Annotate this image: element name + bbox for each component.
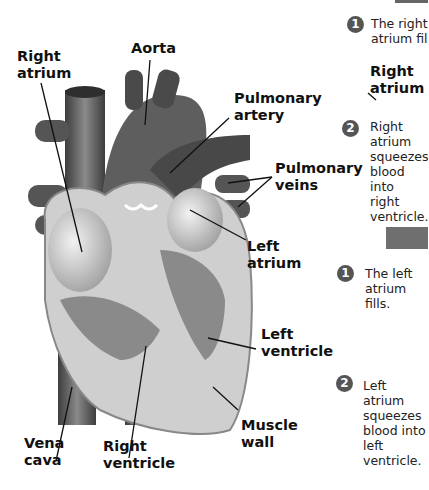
label-aorta: Aorta — [131, 40, 176, 57]
label-vena-cava: Venacava — [24, 435, 64, 469]
label-pulmonary-artery: Pulmonaryartery — [234, 90, 322, 124]
step-right-2-text: Rightatriumsqueezesblood intorightventri… — [370, 119, 429, 224]
label-right-ventricle: Rightventricle — [103, 438, 175, 472]
label-right-atrium: Rightatrium — [17, 48, 71, 82]
step-left-2-text: Leftatriumsqueezesblood intoleftventricl… — [363, 378, 426, 468]
panel-top-bar — [395, 0, 428, 3]
label-left-atrium: Leftatrium — [247, 238, 301, 272]
step-right-1-text: The rightatrium fil — [371, 16, 428, 46]
step-left-1-text: The leftatriumfills. — [365, 266, 412, 311]
label-pulmonary-veins: Pulmonaryveins — [275, 160, 363, 194]
step-badge-left-2: 2 — [336, 375, 353, 392]
step-badge-left-1: 1 — [337, 265, 354, 282]
panel-label-right-atrium: Rightatrium — [370, 63, 424, 97]
step-badge-1: 1 — [347, 16, 364, 33]
panel-divider-bar — [386, 227, 428, 249]
step-badge-2: 2 — [342, 120, 359, 137]
label-left-ventricle: Leftventricle — [261, 326, 333, 360]
label-muscle-wall: Musclewall — [241, 417, 298, 451]
